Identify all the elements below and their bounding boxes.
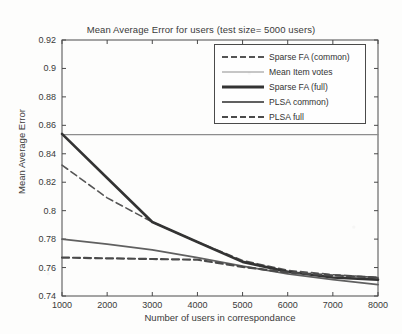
legend-line-sample-icon xyxy=(222,81,264,92)
y-tick-label: 0.78 xyxy=(22,234,56,244)
x-tick-label: 8000 xyxy=(348,300,402,310)
legend-item-label: Sparse FA (common) xyxy=(264,52,350,62)
legend-item: Sparse FA (full) xyxy=(215,79,365,94)
legend-line-sample-icon xyxy=(222,96,264,107)
y-tick-label: 0.8 xyxy=(22,206,56,216)
legend-line-sample-icon xyxy=(222,51,264,62)
legend-item-label: PLSA common) xyxy=(264,97,329,107)
y-tick-label: 0.82 xyxy=(22,177,56,187)
y-tick-label: 0.76 xyxy=(22,263,56,273)
series-line-4 xyxy=(62,258,378,278)
y-tick-label: 0.92 xyxy=(22,35,56,45)
legend-item: PLSA common) xyxy=(215,94,365,109)
legend-item: PLSA full xyxy=(215,109,365,124)
y-tick-label: 0.86 xyxy=(22,120,56,130)
legend-item-label: Mean Item votes xyxy=(264,67,333,77)
x-axis-label: Number of users in correspondance xyxy=(62,312,378,323)
legend-line-sample-icon xyxy=(222,111,264,122)
legend-item: Mean Item votes xyxy=(215,64,365,79)
y-tick-label: 0.9 xyxy=(22,63,56,73)
y-tick-label: 0.84 xyxy=(22,149,56,159)
legend-item-label: Sparse FA (full) xyxy=(264,82,328,92)
y-tick-label: 0.88 xyxy=(22,92,56,102)
legend-line-sample-icon xyxy=(222,66,264,77)
legend-item: Sparse FA (common) xyxy=(215,49,365,64)
series-line-0 xyxy=(62,165,378,277)
chart-legend: Sparse FA (common)Mean Item votesSparse … xyxy=(214,44,366,124)
chart-figure: Mean Average Error for users (test size=… xyxy=(0,0,402,334)
legend-item-label: PLSA full xyxy=(264,112,304,122)
